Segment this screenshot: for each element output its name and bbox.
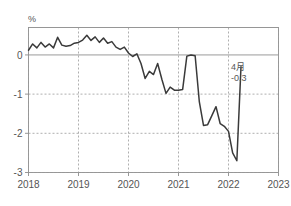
x-tick-label-2021: 2021: [167, 179, 190, 190]
line-chart: 201820192020202120222023 0-1-2-3 % 4月 -0…: [0, 0, 291, 206]
x-tick-label-2022: 2022: [217, 179, 240, 190]
y-tick-label--2: -2: [14, 128, 23, 139]
x-tick-label-2020: 2020: [117, 179, 140, 190]
y-axis-unit-label: %: [28, 14, 36, 24]
annotation-month-label: 4月: [231, 62, 245, 72]
chart-container: 201820192020202120222023 0-1-2-3 % 4月 -0…: [0, 0, 291, 206]
annotation-value-label: -0.3: [231, 73, 247, 83]
chart-background: [0, 0, 291, 206]
x-tick-label-2023: 2023: [267, 179, 290, 190]
y-tick-label--3: -3: [14, 167, 23, 178]
x-tick-label-2018: 2018: [17, 179, 40, 190]
y-tick-label-0: 0: [17, 50, 23, 61]
x-tick-label-2019: 2019: [67, 179, 90, 190]
y-tick-label--1: -1: [14, 89, 23, 100]
